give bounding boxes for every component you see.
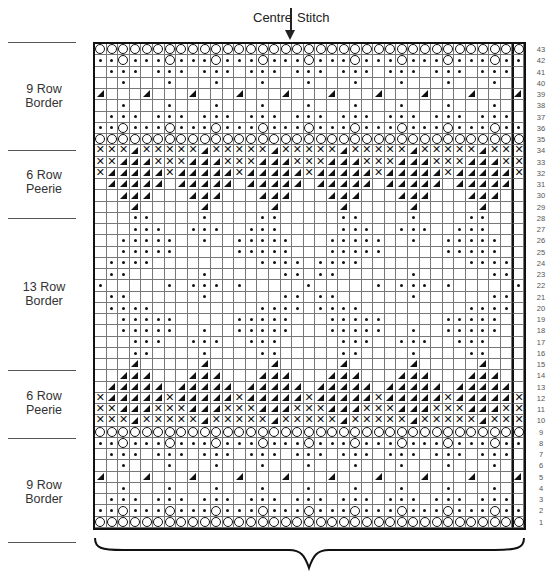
cross-icon: ✕: [431, 144, 442, 154]
chart-cell: [350, 44, 362, 55]
chart-cell: [165, 280, 177, 291]
arrow-head: [285, 30, 295, 40]
dot-icon: [365, 70, 368, 73]
chart-cell: [315, 179, 327, 190]
chart-cell: [362, 100, 374, 111]
circle-icon: [443, 427, 453, 437]
section-divider: [8, 42, 76, 43]
circle-icon: [118, 438, 128, 448]
chart-cell: [141, 449, 153, 460]
triangle-icon: [398, 372, 405, 379]
chart-cell: [350, 55, 362, 66]
chart-cell: [431, 382, 443, 393]
triangle-icon: [131, 203, 138, 210]
chart-cell: [281, 213, 293, 224]
dot-icon: [296, 261, 299, 264]
dot-icon: [400, 464, 403, 467]
chart-cell: [362, 359, 374, 370]
section-label-9-row-border-bottom: 9 Row Border: [0, 478, 88, 506]
dot-icon: [505, 498, 508, 501]
chart-cell: [246, 494, 258, 505]
circle-icon: [258, 427, 268, 437]
cross-icon: ✕: [107, 156, 118, 166]
dot-icon: [99, 284, 102, 287]
chart-cell: [188, 269, 200, 280]
chart-cell: [478, 404, 490, 415]
chart-cell: [257, 449, 269, 460]
dot-icon: [493, 329, 496, 332]
chart-cell: [338, 427, 350, 438]
dot-icon: [481, 126, 484, 129]
chart-cell: [408, 382, 420, 393]
chart-cell: [362, 202, 374, 213]
chart-cell: [130, 100, 142, 111]
chart-cell: [223, 427, 235, 438]
dot-icon: [122, 464, 125, 467]
chart-cell: [199, 123, 211, 134]
chart-cell: [234, 213, 246, 224]
chart-cell: [373, 123, 385, 134]
dot-icon: [192, 126, 195, 129]
circle-icon: [490, 506, 500, 516]
chart-cell: [327, 55, 339, 66]
dot-icon: [192, 59, 195, 62]
dot-icon: [273, 318, 276, 321]
chart-cell: [257, 280, 269, 291]
chart-cell: [234, 269, 246, 280]
chart-cell: [501, 472, 513, 483]
chart-cell: [396, 382, 408, 393]
chart-cell: [338, 44, 350, 55]
dot-icon: [342, 228, 345, 231]
chart-cell: [362, 483, 374, 494]
chart-cell: ✕: [246, 157, 258, 168]
triangle-icon: [282, 383, 289, 390]
dot-icon: [447, 464, 450, 467]
chart-cell: [338, 269, 350, 280]
chart-cell: [315, 247, 327, 258]
triangle-icon: [363, 180, 370, 187]
chart-cell: [130, 269, 142, 280]
chart-cell: [350, 348, 362, 359]
chart-cell: [257, 202, 269, 213]
dot-icon: [296, 307, 299, 310]
chart-cell: [107, 224, 119, 235]
chart-cell: [211, 67, 223, 78]
chart-cell: [373, 202, 385, 213]
chart-cell: [501, 202, 513, 213]
triangle-icon: [213, 394, 220, 401]
chart-cell: [141, 370, 153, 381]
dot-icon: [122, 498, 125, 501]
chart-cell: [130, 359, 142, 370]
chart-cell: [281, 179, 293, 190]
chart-cell: [176, 472, 188, 483]
chart-cell: [165, 337, 177, 348]
chart-cell: [130, 190, 142, 201]
triangle-icon: [410, 417, 417, 424]
chart-cell: [234, 303, 246, 314]
section-label-line2: Border: [0, 96, 88, 110]
chart-cell: [95, 359, 107, 370]
triangle-icon: [247, 383, 254, 390]
chart-cell: [501, 427, 513, 438]
chart-cell: [396, 348, 408, 359]
circle-icon: [95, 427, 105, 437]
dot-icon: [493, 104, 496, 107]
chart-cell: [141, 168, 153, 179]
triangle-icon: [491, 383, 498, 390]
chart-cell: [350, 483, 362, 494]
triangle-icon: [213, 383, 220, 390]
chart-cell: [501, 314, 513, 325]
chart-cell: [199, 325, 211, 336]
chart-cell: [327, 179, 339, 190]
chart-cell: [501, 370, 513, 381]
dot-icon: [273, 509, 276, 512]
chart-cell: [408, 280, 420, 291]
circle-icon: [165, 438, 175, 448]
chart-cell: [176, 112, 188, 123]
chart-cell: [199, 190, 211, 201]
dot-icon: [319, 126, 322, 129]
dot-icon: [157, 329, 160, 332]
triangle-icon: [502, 169, 509, 176]
chart-cell: [385, 314, 397, 325]
chart-cell: [431, 370, 443, 381]
